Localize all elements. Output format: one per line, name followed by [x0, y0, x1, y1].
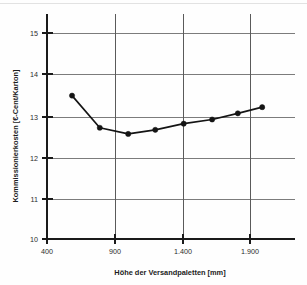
ytick-label-11: 11 — [31, 195, 38, 204]
line-chart-canvas: 15 14 13 12 11 10 400 900 1.400 1.900 Hö… — [0, 0, 307, 285]
ytick-label-13: 13 — [30, 113, 38, 122]
xtick-label-1400: 1.400 — [174, 247, 192, 256]
xtick-label-1900: 1.900 — [241, 247, 259, 256]
horizontal-gridlines — [47, 33, 295, 199]
data-point — [69, 93, 74, 98]
data-series-kommissionierkosten — [69, 93, 264, 137]
xtick-label-400: 400 — [41, 247, 53, 256]
data-point — [260, 105, 265, 110]
data-point — [210, 117, 215, 122]
data-point — [97, 125, 102, 130]
ytick-label-14: 14 — [30, 70, 38, 79]
y-axis-title: Kommissionierkosten [€-Cent/Karton] — [11, 69, 20, 203]
vertical-gridlines — [115, 14, 250, 239]
ytick-label-10: 10 — [30, 235, 38, 244]
series-markers — [69, 93, 264, 137]
x-axis-title: Höhe der Versandpaletten [mm] — [114, 268, 226, 277]
xtick-label-900: 900 — [109, 247, 121, 256]
data-point — [181, 121, 186, 126]
data-point — [153, 127, 158, 132]
data-point — [126, 131, 131, 136]
data-point — [235, 111, 240, 116]
ytick-label-12: 12 — [30, 154, 38, 163]
chart-figure: 15 14 13 12 11 10 400 900 1.400 1.900 Hö… — [0, 0, 307, 285]
ytick-label-15: 15 — [30, 29, 38, 38]
